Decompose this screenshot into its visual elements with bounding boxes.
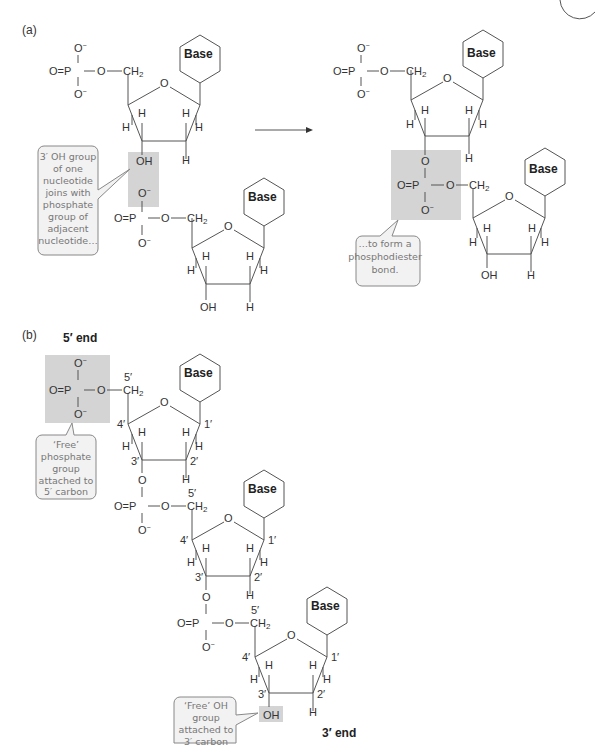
svg-text:H: H — [309, 659, 317, 671]
svg-text:bond.: bond. — [372, 264, 399, 275]
svg-text:O=P: O=P — [114, 500, 136, 512]
three-prime-end-label: 3′ end — [322, 726, 356, 740]
base-label: Base — [248, 482, 277, 496]
svg-text:group of: group of — [48, 211, 88, 222]
five-prime-end-label: 5′ end — [63, 331, 97, 345]
svg-text:attached to: attached to — [179, 724, 234, 735]
svg-text:O=P: O=P — [177, 617, 199, 629]
svg-text:5′: 5′ — [251, 604, 259, 616]
svg-text:phosphodiester: phosphodiester — [348, 251, 422, 262]
svg-text:phosphate: phosphate — [43, 199, 93, 210]
svg-text:3′ carbon: 3′ carbon — [184, 736, 228, 746]
svg-text:O: O — [97, 65, 106, 77]
svg-text:H: H — [309, 706, 317, 718]
svg-text:joins with: joins with — [44, 187, 90, 198]
svg-text:O: O — [446, 179, 455, 191]
svg-text:4′: 4′ — [180, 534, 188, 546]
svg-text:H: H — [182, 473, 190, 485]
reaction-arrow — [255, 127, 313, 133]
svg-text:2′: 2′ — [190, 455, 198, 467]
svg-text:H: H — [202, 542, 210, 554]
base-label: Base — [184, 47, 213, 61]
svg-text:…to form a: …to form a — [358, 238, 411, 249]
svg-text:CH2: CH2 — [187, 500, 208, 514]
svg-text:nucleotide: nucleotide — [43, 175, 93, 186]
svg-text:O−: O− — [138, 524, 151, 536]
svg-text:H: H — [465, 104, 473, 116]
svg-text:O−: O− — [74, 88, 87, 100]
svg-text:2′: 2′ — [317, 688, 325, 700]
svg-text:‘Free’: ‘Free’ — [53, 439, 79, 450]
svg-text:H: H — [246, 589, 254, 601]
svg-text:O: O — [161, 500, 170, 512]
svg-text:4′: 4′ — [242, 651, 250, 663]
svg-text:1′: 1′ — [204, 418, 212, 430]
panel-a-label: (a) — [22, 23, 37, 37]
svg-text:O: O — [380, 65, 389, 77]
svg-text:OH: OH — [136, 155, 153, 167]
svg-text:H: H — [528, 222, 536, 234]
svg-text:O−: O− — [202, 641, 215, 653]
svg-text:5′: 5′ — [124, 371, 132, 383]
base-label: Base — [248, 190, 277, 204]
svg-text:H: H — [479, 118, 487, 130]
svg-text:nucleotide…: nucleotide… — [38, 235, 97, 246]
svg-text:‘Free’ OH: ‘Free’ OH — [184, 700, 228, 711]
svg-text:H: H — [246, 250, 254, 262]
svg-text:CH2: CH2 — [123, 384, 144, 398]
base-label: Base — [529, 162, 558, 176]
svg-text:phosphate: phosphate — [41, 451, 91, 462]
page-corner-mark — [560, 0, 595, 19]
svg-text:H: H — [122, 440, 130, 452]
svg-text:O=P: O=P — [49, 65, 71, 77]
svg-text:4′: 4′ — [117, 418, 125, 430]
svg-text:H: H — [541, 236, 549, 248]
svg-text:O=P: O=P — [114, 212, 136, 224]
svg-text:group: group — [52, 463, 80, 474]
svg-text:H: H — [182, 154, 190, 166]
svg-text:O: O — [160, 396, 169, 408]
svg-text:H: H — [250, 673, 258, 685]
svg-text:H: H — [182, 426, 190, 438]
svg-text:OH: OH — [200, 301, 217, 313]
svg-text:OH: OH — [481, 269, 498, 281]
svg-text:O: O — [202, 591, 211, 603]
svg-text:attached to: attached to — [39, 475, 94, 486]
svg-text:H: H — [187, 556, 195, 568]
svg-text:H: H — [260, 556, 268, 568]
svg-text:O: O — [505, 190, 514, 202]
svg-text:adjacent: adjacent — [47, 223, 88, 234]
svg-text:O: O — [161, 212, 170, 224]
callout-3oh-joins: 3′ OH group of one nucleotide joins with… — [38, 146, 130, 255]
svg-text:O=P: O=P — [397, 179, 419, 191]
svg-text:1′: 1′ — [268, 534, 276, 546]
svg-text:3′: 3′ — [258, 688, 266, 700]
svg-text:O=P: O=P — [49, 384, 71, 396]
svg-text:O−: O− — [357, 88, 370, 100]
svg-text:H: H — [246, 301, 254, 313]
svg-text:H: H — [138, 426, 146, 438]
svg-text:O−: O− — [138, 237, 151, 249]
nucleotide-diagram: (a) O=P O− O− O CH2 O H H H H H Base OH … — [0, 0, 595, 746]
base-label: Base — [311, 599, 340, 613]
svg-text:H: H — [421, 104, 429, 116]
nucleotide-a4: O H H H H OH H Base — [469, 148, 565, 281]
svg-text:CH2: CH2 — [469, 179, 490, 193]
svg-text:H: H — [122, 121, 130, 133]
svg-text:O: O — [160, 77, 169, 89]
svg-text:group: group — [192, 712, 220, 723]
svg-text:H: H — [195, 440, 203, 452]
svg-text:3′ OH group: 3′ OH group — [40, 151, 96, 162]
svg-text:O: O — [421, 155, 430, 167]
svg-text:O: O — [443, 72, 452, 84]
svg-text:CH2: CH2 — [250, 617, 271, 631]
panel-b-label: (b) — [22, 328, 37, 342]
callout-free-phosphate: ‘Free’ phosphate group attached to 5′ ca… — [36, 423, 96, 499]
svg-text:H: H — [195, 121, 203, 133]
svg-text:H: H — [202, 250, 210, 262]
svg-text:H: H — [265, 659, 273, 671]
svg-text:5′: 5′ — [188, 487, 196, 499]
svg-text:of one: of one — [53, 163, 83, 174]
svg-text:O: O — [97, 384, 106, 396]
svg-text:CH2: CH2 — [406, 65, 427, 79]
